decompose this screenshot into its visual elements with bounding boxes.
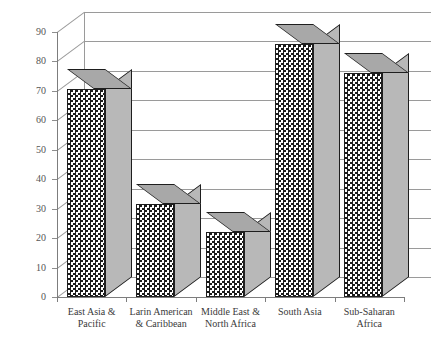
bar-front-face-0 [67, 89, 105, 297]
gridline-80 [84, 41, 431, 42]
y-tick-label-30: 30 [24, 204, 46, 214]
bar-3[interactable] [275, 24, 340, 297]
x-tick-1 [126, 297, 127, 302]
y-tick-label-70: 70 [24, 86, 46, 96]
bar-side-face-4 [382, 53, 409, 297]
plot-area: 0102030405060708090East Asia &PacificLar… [0, 0, 444, 343]
y-tick-label-0: 0 [24, 292, 46, 302]
x-axis-label-4: Sub-SaharanAfrica [327, 306, 412, 330]
bar-chart: Percentage of people who are poor 010203… [0, 0, 444, 343]
bar-front-face-2 [206, 232, 244, 297]
bar-2[interactable] [206, 212, 271, 297]
x-tick-end [404, 297, 405, 302]
y-tick-label-50: 50 [24, 145, 46, 155]
gridline-90 [84, 12, 431, 13]
bar-side-face-0 [105, 69, 132, 297]
x-axis-label-4-line-1: Africa [327, 318, 412, 330]
x-tick-4 [335, 297, 336, 302]
y-tick-label-60: 60 [24, 115, 46, 125]
bar-1[interactable] [136, 184, 201, 297]
y-tick-label-20: 20 [24, 233, 46, 243]
y-tick-label-80: 80 [24, 56, 46, 66]
depth-connector-90 [57, 12, 85, 33]
bar-front-face-4 [344, 73, 382, 297]
floor-right-edge [3, 0, 30, 10]
x-tick-3 [265, 297, 266, 302]
bar-front-face-1 [136, 204, 174, 297]
x-axis-label-2-line-1: North Africa [188, 318, 273, 330]
y-tick-label-40: 40 [24, 174, 46, 184]
bar-front-face-3 [275, 44, 313, 297]
x-axis-line [57, 297, 404, 298]
y-tick-label-90: 90 [24, 27, 46, 37]
x-tick-2 [196, 297, 197, 302]
x-tick-0 [57, 297, 58, 302]
bar-4[interactable] [344, 53, 409, 297]
bar-side-face-3 [313, 24, 340, 297]
x-axis-label-4-line-0: Sub-Saharan [327, 306, 412, 318]
y-axis-line [57, 32, 58, 297]
depth-connector-80 [57, 41, 85, 62]
y-tick-label-10: 10 [24, 263, 46, 273]
bar-0[interactable] [67, 69, 132, 297]
